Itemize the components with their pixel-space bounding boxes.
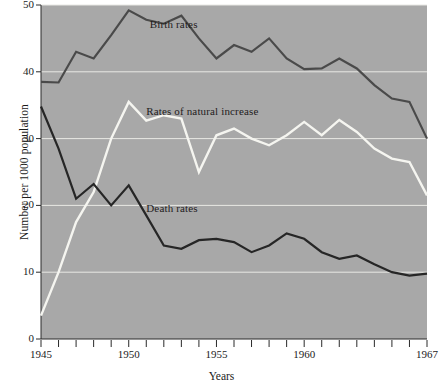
- chart-figure: Number per 1000 population Years 0102030…: [0, 0, 443, 390]
- series-label-rates-of-natural-increase: Rates of natural increase: [146, 105, 258, 117]
- vital-rates-line-chart: [0, 0, 443, 390]
- y-tick-label: 0: [8, 332, 34, 344]
- series-label-death-rates: Death rates: [146, 202, 197, 214]
- series-label-birth-rates: Birth rates: [150, 18, 198, 30]
- x-tick-label: 1960: [284, 348, 324, 360]
- x-tick-label: 1945: [21, 348, 61, 360]
- y-axis-title: Number per 1000 population: [18, 62, 30, 282]
- y-tick-label: 30: [8, 132, 34, 144]
- plot-area-background: [41, 5, 427, 339]
- y-tick-label: 20: [8, 198, 34, 210]
- y-tick-label: 50: [8, 0, 34, 10]
- y-tick-label: 40: [8, 65, 34, 77]
- x-tick-label: 1950: [109, 348, 149, 360]
- x-tick-label: 1967: [407, 348, 443, 360]
- y-tick-label: 10: [8, 265, 34, 277]
- x-axis-title: Years: [0, 370, 443, 382]
- x-tick-label: 1955: [196, 348, 236, 360]
